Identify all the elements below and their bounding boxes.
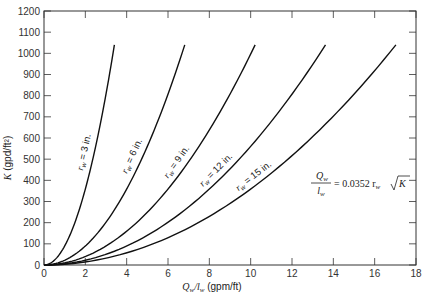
y-tick-label: 400: [23, 175, 40, 186]
y-axis-label: K (gpd/ft²): [2, 136, 13, 181]
x-tick-label: 6: [165, 268, 171, 279]
x-tick-label: 14: [328, 268, 340, 279]
x-tick-label: 12: [286, 268, 298, 279]
x-axis-label: Qw/lw (gpm/ft): [182, 281, 241, 294]
x-tick-label: 4: [124, 268, 130, 279]
y-tick-label: 900: [23, 69, 40, 80]
y-axis-ticks: 0100200300400500600700800900100011001200: [18, 6, 416, 271]
y-tick-label: 700: [23, 111, 40, 122]
y-tick-label: 1200: [18, 6, 41, 17]
y-tick-label: 300: [23, 196, 40, 207]
y-tick-label: 100: [23, 238, 40, 249]
y-tick-label: 600: [23, 133, 40, 144]
curves: [44, 45, 396, 265]
plot-frame: [44, 11, 416, 265]
x-tick-label: 8: [207, 268, 213, 279]
curve-label-r9: rw = 9 in.: [161, 143, 192, 180]
x-tick-label: 10: [245, 268, 257, 279]
formula-annotation: Qw lw = 0.0352 rw K: [311, 170, 410, 198]
svg-text:lw: lw: [317, 185, 325, 198]
x-tick-label: 0: [41, 268, 47, 279]
x-tick-label: 18: [410, 268, 422, 279]
svg-text:K: K: [398, 178, 407, 189]
curve-label-r6: rw = 6 in.: [119, 137, 145, 176]
x-axis-ticks: 024681012141618: [41, 11, 422, 279]
y-tick-label: 500: [23, 154, 40, 165]
y-tick-label: 0: [34, 260, 40, 271]
curve-labels: rw = 3 in.rw = 6 in.rw = 9 in.rw = 12 in…: [74, 133, 274, 194]
y-tick-label: 1100: [18, 27, 40, 38]
x-tick-label: 2: [83, 268, 89, 279]
k-vs-flow-chart: 024681012141618 010020030040050060070080…: [0, 0, 427, 298]
svg-text:= 0.0352 rw: = 0.0352 rw: [334, 178, 380, 191]
y-tick-label: 1000: [18, 48, 41, 59]
y-tick-label: 800: [23, 90, 40, 101]
x-tick-label: 16: [369, 268, 381, 279]
curve-r15: [44, 45, 396, 265]
y-tick-label: 200: [23, 217, 40, 228]
curve-r6: [44, 45, 185, 265]
svg-text:Qw: Qw: [316, 170, 328, 183]
